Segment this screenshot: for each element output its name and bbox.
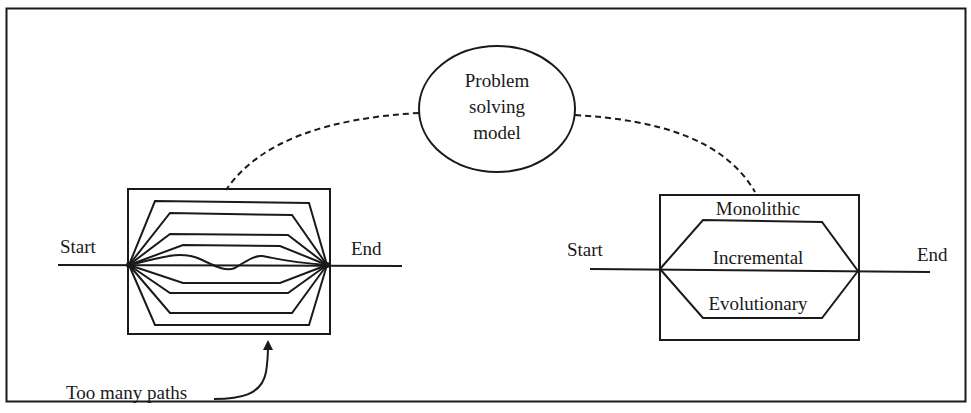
left-baseline [58, 265, 402, 266]
path-bundle [129, 201, 327, 325]
right-end-label: End [917, 244, 948, 265]
diagram-canvas: Problem solving model Start End Too many… [0, 0, 971, 413]
path-wavy-middle [129, 255, 327, 269]
left-panel-many-paths: Start End [58, 189, 402, 334]
right-panel-approaches: Monolithic Incremental Evolutionary Star… [567, 195, 948, 340]
path-upper-3 [129, 234, 327, 265]
left-start-label: Start [60, 236, 97, 257]
right-baseline [590, 269, 930, 272]
right-start-label: Start [567, 239, 604, 260]
too-many-paths-annotation: Too many paths [66, 382, 187, 403]
path-lower-1 [129, 265, 327, 283]
left-end-node [324, 262, 330, 268]
left-end-label: End [351, 238, 382, 259]
node-label-line-3: model [473, 122, 521, 143]
path-upper-1 [129, 201, 327, 265]
dashed-connector-right [575, 115, 755, 192]
left-start-node [126, 262, 132, 268]
node-label-line-2: solving [469, 96, 525, 117]
node-label-line-1: Problem [465, 70, 530, 91]
annotation-arrow [214, 345, 268, 399]
dashed-connector-left [226, 113, 419, 190]
monolithic-label: Monolithic [716, 198, 800, 219]
incremental-label: Incremental [713, 247, 804, 268]
problem-solving-model-node: Problem solving model [419, 46, 575, 172]
path-lower-3 [129, 265, 327, 313]
evolutionary-label: Evolutionary [708, 293, 808, 314]
